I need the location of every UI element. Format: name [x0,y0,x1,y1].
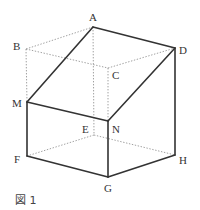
vertex-label-f: F [14,153,20,165]
figure-caption: 図 1 [15,191,37,207]
vertex-label-d: D [179,44,187,56]
hidden-edges [26,27,175,156]
edge-fg [27,156,108,177]
vertex-label-h: H [179,154,187,166]
hidden-edge-eh [94,135,175,155]
edge-ad [93,27,175,48]
hidden-edge-ef [27,135,94,156]
vertex-label-b: B [13,40,20,52]
hidden-edge-ae [93,27,94,135]
solid-figure-diagram: ABCDMNEFGH [0,0,200,210]
edge-dn [108,48,175,121]
edge-gh [108,155,175,177]
vertex-label-c: C [112,69,119,81]
vertex-label-m: M [12,97,22,109]
vertex-label-a: A [89,11,97,23]
edge-mn [27,102,108,121]
visible-edges [27,27,175,177]
vertex-label-g: G [104,182,112,194]
vertex-label-e: E [82,123,89,135]
vertex-label-n: N [112,123,120,135]
hidden-edge-bm [26,49,27,102]
vertex-labels: ABCDMNEFGH [12,11,187,194]
hidden-edge-bc [26,49,108,68]
edge-am [27,27,93,102]
